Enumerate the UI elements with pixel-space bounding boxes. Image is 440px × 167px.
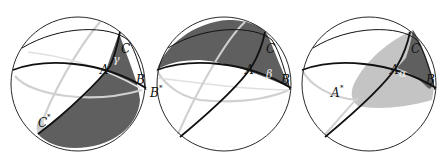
label-B: B xyxy=(280,73,290,87)
label-A: A xyxy=(244,63,254,77)
sphere-panel-gamma: C A B γ C * xyxy=(11,17,146,151)
label-angle-beta: β xyxy=(265,68,272,81)
label-antipode-C: C xyxy=(38,116,47,130)
label-B: B xyxy=(135,73,145,87)
label-B: B xyxy=(425,73,435,87)
label-angle-gamma: γ xyxy=(113,53,120,66)
label-A: A xyxy=(389,63,399,77)
label-antipode-A: A xyxy=(330,86,340,100)
back-arc xyxy=(302,70,358,100)
label-C: C xyxy=(121,42,130,56)
label-C: C xyxy=(266,42,275,56)
label-A: A xyxy=(99,63,109,77)
sphere-panel-alpha: C A B α A * xyxy=(302,17,436,151)
antipode-mark: * xyxy=(47,113,51,121)
label-angle-alpha: α xyxy=(399,67,407,80)
sphere-panel-beta: C A B β B * xyxy=(149,17,291,151)
label-C: C xyxy=(411,42,420,56)
antipode-mark: * xyxy=(340,84,344,92)
label-antipode-B: B xyxy=(149,86,159,100)
antipode-mark: * xyxy=(159,84,163,92)
back-arc xyxy=(325,98,358,134)
spherical-triangle-figure: C A B γ C * C A B β B * C A B α A xyxy=(0,0,440,167)
